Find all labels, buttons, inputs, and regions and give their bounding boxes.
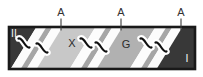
zone-x-label: X (68, 37, 76, 49)
right-end-label: I (186, 52, 189, 64)
marker-label-2: A (117, 6, 125, 18)
marker-label-3: A (177, 6, 185, 18)
zone-g-label: G (122, 38, 131, 50)
marker-label-1: A (57, 6, 65, 18)
block-interior: II X G I (0, 26, 203, 70)
shear-zone-diagram: II X G I A A A (0, 0, 203, 77)
diagram-canvas: II X G I A A A (0, 0, 203, 77)
